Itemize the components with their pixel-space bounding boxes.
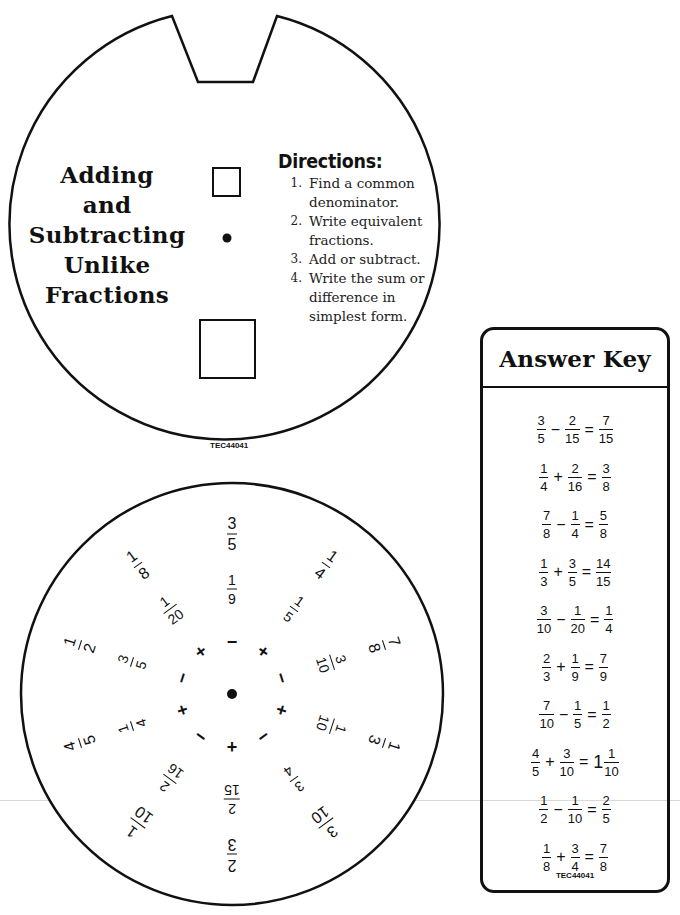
operator-sign: + [553,468,562,486]
fraction-denominator: 9 [600,670,607,683]
fraction-bar [599,429,613,430]
result-fraction: 110 [604,747,618,778]
fraction-denominator: 10 [604,765,618,778]
fraction-numerator: 7 [543,699,550,712]
fraction-numerator: 3 [333,653,349,665]
fraction-bar [599,524,608,525]
answer-equation: 13+35=1415 [483,549,667,597]
fraction-numerator: 3 [228,516,237,532]
operator-sign: + [556,848,565,866]
fraction-denominator: 16 [568,480,582,493]
fraction-denominator: 20 [571,622,585,635]
fraction-numerator: 1 [602,699,609,712]
title-line: Unlike [22,250,192,280]
fraction-denominator: 4 [540,480,547,493]
fraction-numerator: 1 [333,724,349,736]
fraction: 13 [539,557,548,588]
fraction-bar [599,667,608,668]
fraction-numerator: 2 [571,462,578,475]
answer-equation: 12−110=25 [483,786,667,834]
result-fraction: 14 [604,604,613,635]
fraction-denominator: 8 [602,480,609,493]
fraction-bar [604,619,613,620]
fraction-bar [224,799,240,800]
fraction-denominator: 10 [560,765,574,778]
fraction-denominator: 5 [538,432,545,445]
fraction-numerator: 1 [228,573,236,587]
fraction-denominator: 9 [571,670,578,683]
fraction: 215 [565,414,579,445]
fraction-numerator: 14 [596,557,610,570]
fraction-bar [604,762,618,763]
fraction-bar [227,589,237,590]
fraction: 310 [537,604,551,635]
fraction-denominator: 8 [600,527,607,540]
fraction-bar [599,857,608,858]
equals-sign: = [587,706,596,724]
fraction: 19 [571,652,580,683]
equals-sign: = [585,658,594,676]
answer-key-list: 35−215=71514+216=3878−14=5813+35=1415310… [483,388,667,881]
fraction-denominator: 2 [540,812,547,825]
fraction-bar [565,429,579,430]
fraction-denominator: 8 [543,527,550,540]
fraction-bar [568,809,582,810]
fraction: 34 [571,842,580,873]
fraction-denominator: 2 [602,717,609,730]
answer-equation: 45+310=1110 [483,739,667,787]
plus-sign: + [227,736,238,757]
fraction-bar [539,477,548,478]
fraction-bar [542,857,551,858]
fraction-denominator: 3 [228,836,237,852]
fraction-numerator: 1 [608,747,615,760]
fraction: 23 [542,652,551,683]
equals-sign: = [587,468,596,486]
fraction: 14 [571,509,580,540]
operator-sign: − [551,421,560,439]
fraction-denominator: 5 [228,537,237,553]
fraction-denominator: 5 [602,812,609,825]
answer-equation: 14+216=38 [483,454,667,502]
fraction-denominator: 4 [571,527,578,540]
fraction-denominator: 15 [224,783,240,797]
operator-sign: − [556,516,565,534]
fraction-denominator: 5 [532,765,539,778]
fraction: 45 [531,747,540,778]
top-wheel-cutout: Adding and Subtracting Unlike Fractions … [0,0,460,470]
fraction-bar [227,854,237,855]
fraction-numerator: 2 [228,802,236,816]
title-line: Subtracting [22,220,192,250]
fraction-numerator: 7 [600,652,607,665]
fraction-denominator: 4 [605,622,612,635]
fraction-denominator: 15 [599,432,613,445]
fraction-bar [573,714,582,715]
result-fraction: 715 [599,414,613,445]
fraction-numerator: 3 [324,823,341,841]
fraction-bar [537,619,551,620]
fraction-denominator: 15 [565,432,579,445]
result-fraction: 25 [602,794,611,825]
equals-sign: = [585,421,594,439]
fraction-bar [539,809,548,810]
center-brad-dot [223,234,232,243]
fraction-denominator: 3 [543,670,550,683]
bottom-wheel: 3514781331023110451218 19153101103421521… [0,470,460,915]
fraction-bar [568,477,582,478]
wheel-fraction: 23 [227,836,237,873]
fraction-numerator: 2 [569,414,576,427]
answer-equation: 310−120=14 [483,596,667,644]
fraction: 216 [568,462,582,493]
title-line: Adding [22,160,192,190]
fraction-denominator: 15 [596,575,610,588]
wheel-fraction: 19 [227,573,237,606]
fraction-denominator: 10 [568,812,582,825]
fraction-bar [227,534,237,535]
fraction-numerator: 7 [602,414,609,427]
fraction-numerator: 1 [571,794,578,807]
fraction: 310 [560,747,574,778]
center-brad-dot [227,689,237,699]
fraction-bar [602,714,611,715]
operator-sign: − [556,611,565,629]
fraction-bar [542,524,551,525]
fraction-numerator: 7 [600,842,607,855]
